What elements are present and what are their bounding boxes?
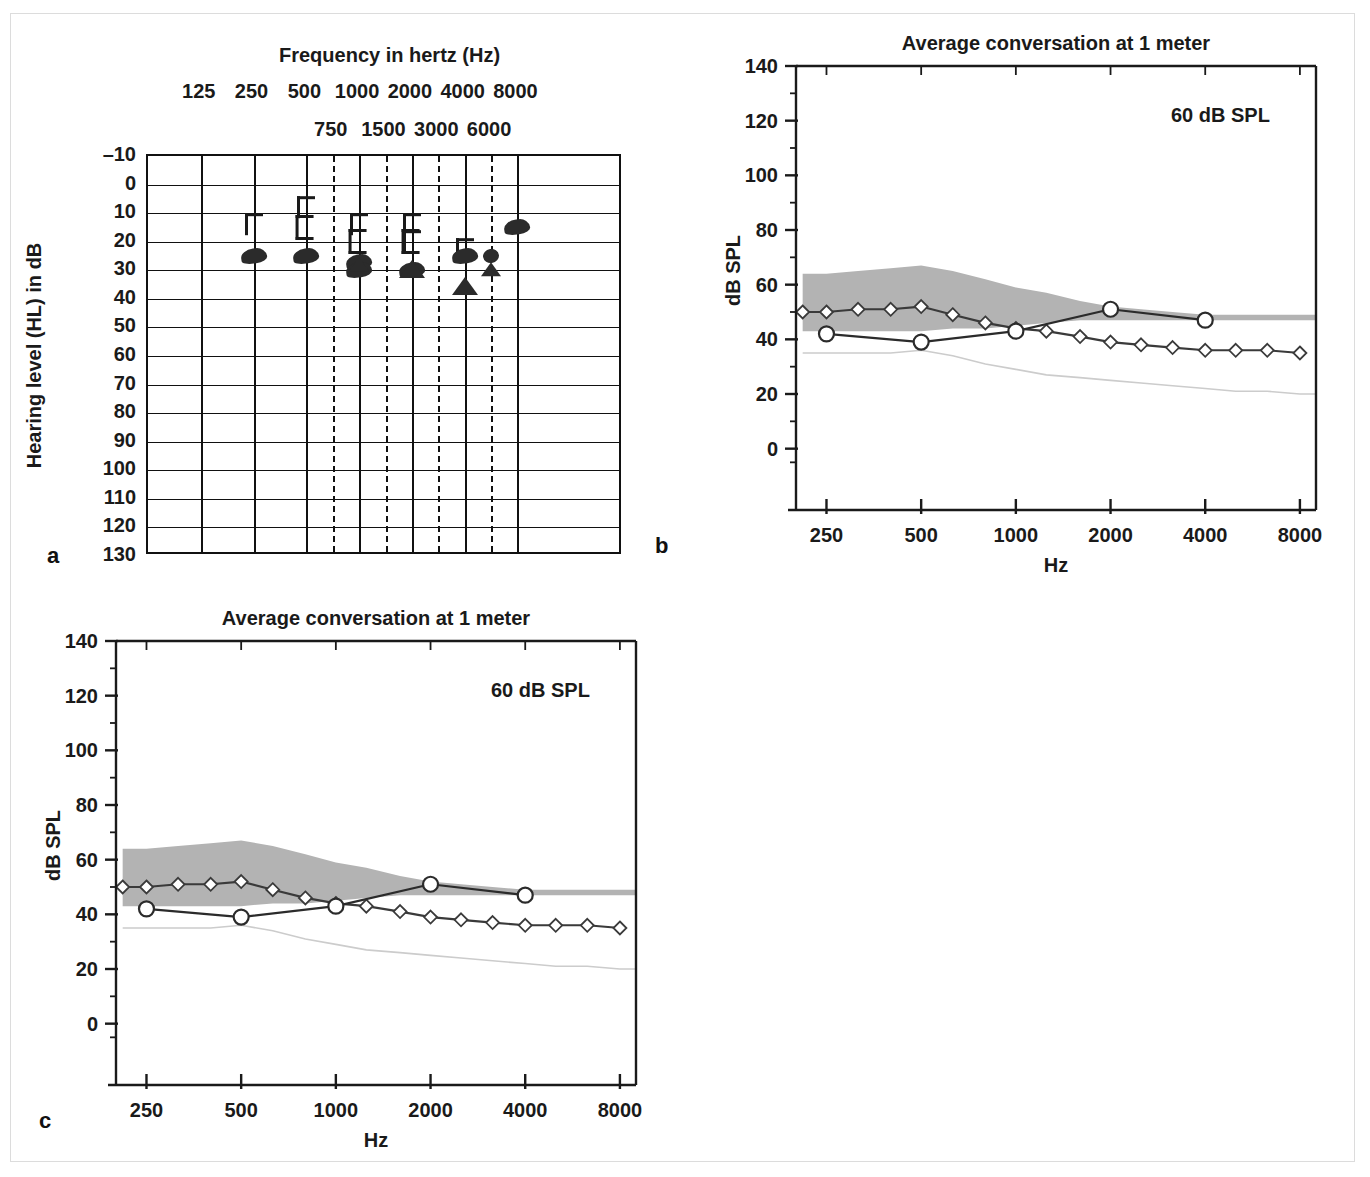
grid-hline-90	[148, 442, 619, 443]
panel-b-series-1-marker-2	[1008, 324, 1023, 339]
audiogram-title: Frequency in hertz (Hz)	[279, 44, 500, 67]
panel-b-series-0-marker-16	[1293, 347, 1306, 360]
panel-c-series-0-marker-14	[549, 919, 562, 932]
panel-letter-c: c	[39, 1108, 51, 1134]
grid-hline-120	[148, 527, 619, 528]
panel-b-title: Average conversation at 1 meter	[902, 32, 1210, 55]
audiogram-y-axis-title: Hearing level (HL) in dB	[23, 181, 46, 531]
panel-c-x-tick-label-8000: 8000	[598, 1099, 643, 1122]
hl-tick-100: 100	[76, 457, 136, 480]
grid-hline-10	[148, 213, 619, 214]
grid-hline-100	[148, 470, 619, 471]
panel-b-y-tick-label-40: 40	[706, 328, 778, 351]
panel-b-x-tick-label-2000: 2000	[1088, 524, 1133, 547]
grid-vline-4000	[465, 156, 467, 552]
panel-c-series-0-marker-16	[613, 922, 626, 935]
audiogram-symbol-bone-right-masked-500	[297, 196, 315, 218]
audiogram-symbol-bone-right-masked-250	[245, 213, 263, 235]
grid-vline-6000	[491, 156, 493, 552]
panel-b-x-tick-label-1000: 1000	[994, 524, 1039, 547]
hl-tick-20: 20	[76, 228, 136, 251]
panel-b-series-1-marker-3	[1103, 302, 1118, 317]
audiogram-symbol-aided-triangle-6000	[481, 263, 501, 277]
grid-vline-750	[333, 156, 335, 552]
grid-vline-3000	[438, 156, 440, 552]
frequency-label-500: 500	[288, 80, 321, 103]
panel-c-splogram: Average conversation at 1 meter 60 dB SP…	[21, 589, 676, 1154]
panel-b-series-0-marker-14	[1229, 344, 1242, 357]
hl-tick-80: 80	[76, 400, 136, 423]
panel-b-x-tick-label-4000: 4000	[1183, 524, 1228, 547]
panel-c-series-1-marker-3	[423, 877, 438, 892]
grid-hline-0	[148, 185, 619, 186]
grid-vline-125	[201, 156, 203, 552]
panel-b-y-tick-label-80: 80	[706, 219, 778, 242]
panel-b-annotation: 60 dB SPL	[1171, 104, 1270, 127]
audiogram-symbol-bone-left-masked-1000	[349, 229, 367, 254]
frequency-label-1000: 1000	[335, 80, 380, 103]
hl-tick-10: 10	[76, 200, 136, 223]
panel-b-series-0-marker-8	[1040, 325, 1053, 338]
grid-vline-1500	[386, 156, 388, 552]
hl-tick--10: –10	[76, 143, 136, 166]
panel-c-series-0-marker-8	[360, 900, 373, 913]
audiogram-symbol-aided-triangle-4000	[452, 278, 478, 296]
grid-vline-8000	[517, 156, 519, 552]
hl-tick-90: 90	[76, 428, 136, 451]
hl-tick-0: 0	[76, 171, 136, 194]
panel-b-x-tick-label-500: 500	[904, 524, 937, 547]
panel-b-threshold-reference-line	[803, 350, 1316, 394]
panel-c-y-tick-label-40: 40	[26, 903, 98, 926]
grid-hline-60	[148, 356, 619, 357]
figure-frame: Frequency in hertz (Hz) 1252505001000200…	[10, 13, 1355, 1162]
audiogram-symbol-aided-soundfield-8000	[504, 218, 532, 236]
panel-c-x-tick-label-250: 250	[130, 1099, 163, 1122]
panel-b-y-tick-label-140: 140	[706, 55, 778, 78]
frequency-label-3000: 3000	[414, 118, 459, 141]
panel-c-series-0-marker-13	[519, 919, 532, 932]
panel-c-series-0-marker-12	[486, 916, 499, 929]
grid-hline-80	[148, 413, 619, 414]
panel-b-series-1-marker-4	[1198, 313, 1213, 328]
grid-hline-30	[148, 270, 619, 271]
audiogram-symbol-aided-soundfield-250	[240, 247, 268, 265]
panel-b-series-0-marker-15	[1261, 344, 1274, 357]
frequency-label-2000: 2000	[388, 80, 433, 103]
grid-hline-20	[148, 242, 619, 243]
panel-b-y-tick-label-20: 20	[706, 383, 778, 406]
panel-c-x-tick-label-2000: 2000	[408, 1099, 453, 1122]
panel-b-series-0-marker-12	[1166, 341, 1179, 354]
grid-hline-110	[148, 499, 619, 500]
panel-b-series-0-marker-9	[1074, 330, 1087, 343]
panel-c-y-tick-label-120: 120	[26, 684, 98, 707]
panel-c-series-0-marker-11	[455, 913, 468, 926]
hl-tick-110: 110	[76, 485, 136, 508]
panel-c-threshold-reference-line	[123, 925, 636, 969]
panel-c-series-1-marker-0	[139, 901, 154, 916]
frequency-label-125: 125	[182, 80, 215, 103]
hl-tick-50: 50	[76, 314, 136, 337]
panel-c-x-tick-label-500: 500	[224, 1099, 257, 1122]
panel-c-x-axis-label: Hz	[364, 1129, 388, 1152]
panel-b-series-1-marker-1	[914, 335, 929, 350]
audiogram-symbol-aided-soundfield-500	[292, 247, 320, 265]
grid-hline-70	[148, 385, 619, 386]
panel-c-y-tick-label-80: 80	[26, 794, 98, 817]
panel-c-y-tick-label-100: 100	[26, 739, 98, 762]
panel-b-plot-area	[701, 14, 1356, 579]
panel-c-y-tick-label-0: 0	[26, 1012, 98, 1035]
panel-c-y-tick-label-140: 140	[26, 630, 98, 653]
panel-c-series-0-marker-9	[394, 905, 407, 918]
panel-c-series-0-marker-10	[424, 911, 437, 924]
audiogram-symbol-bone-right-masked-2000	[403, 230, 421, 252]
audiogram-grid	[146, 154, 621, 554]
panel-b-y-tick-label-120: 120	[706, 109, 778, 132]
panel-b-x-axis-label: Hz	[1044, 554, 1068, 577]
audiogram-symbol-aided-triangle-2000	[399, 260, 425, 278]
panel-b-y-tick-label-0: 0	[706, 437, 778, 460]
hl-tick-60: 60	[76, 343, 136, 366]
hl-tick-120: 120	[76, 514, 136, 537]
frequency-label-8000: 8000	[493, 80, 538, 103]
panel-c-series-1-marker-2	[328, 899, 343, 914]
panel-c-title: Average conversation at 1 meter	[222, 607, 530, 630]
